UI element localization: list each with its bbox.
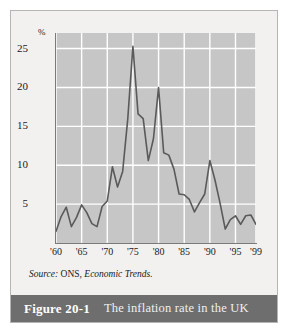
source-note: Source: ONS, Economic Trends. (29, 269, 153, 279)
figure-caption-bar: Figure 20-1 The inflation rate in the UK (11, 295, 277, 322)
x-axis-tick-label: '70 (95, 247, 119, 257)
figure-container: % 510152025 '60'65'70'75'80'85'90'95'99 … (10, 10, 278, 323)
y-axis-tick-label: 5 (2, 198, 28, 209)
x-axis-line (55, 243, 257, 244)
source-body: ONS, (61, 269, 82, 279)
x-axis-tick-label: '99 (244, 247, 268, 257)
x-axis-tick-label: '90 (198, 247, 222, 257)
figure-number-label: Figure 20-1 (24, 301, 90, 317)
chart-plot-area (56, 33, 256, 243)
y-axis-tick-label: 25 (2, 43, 28, 54)
source-prefix: Source: (29, 269, 58, 279)
x-axis-tick-label: '65 (70, 247, 94, 257)
inflation-line-chart (56, 33, 256, 243)
y-axis-tick-label: 20 (2, 81, 28, 92)
y-axis-tick-label: 10 (2, 159, 28, 170)
y-axis-unit-label: % (38, 27, 46, 37)
x-axis-tick-label: '85 (172, 247, 196, 257)
source-publication: Economic Trends. (84, 269, 152, 279)
x-axis-tick-label: '75 (121, 247, 145, 257)
figure-title-label: The inflation rate in the UK (104, 301, 249, 316)
y-axis-tick-label: 15 (2, 120, 28, 131)
x-axis-tick-label: '80 (147, 247, 171, 257)
y-axis-line (55, 33, 56, 244)
x-axis-tick-label: '60 (44, 247, 68, 257)
